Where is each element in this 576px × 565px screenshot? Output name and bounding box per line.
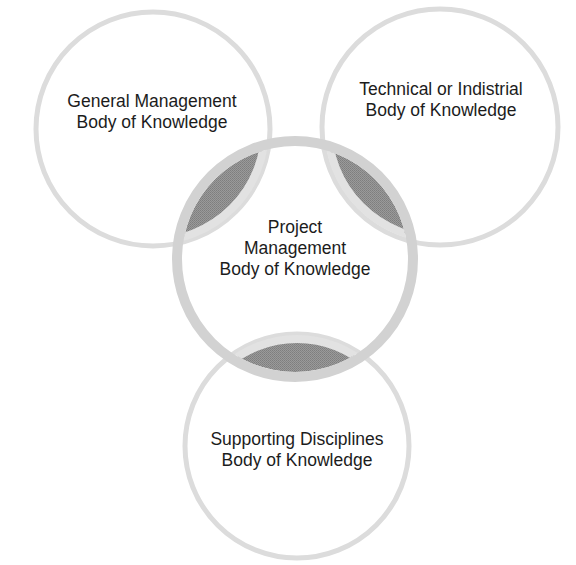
label-supporting-line2: Body of Knowledge <box>222 450 373 470</box>
label-general-line1: General Management <box>67 91 236 111</box>
label-technical-line1: Technical or Indistrial <box>359 79 522 99</box>
label-general-line2: Body of Knowledge <box>77 112 228 132</box>
label-supporting-line1: Supporting Disciplines <box>210 429 383 449</box>
label-project-line3: Body of Knowledge <box>220 259 371 279</box>
knowledge-areas-diagram: General Management Body of Knowledge Tec… <box>0 0 576 565</box>
label-project-line2: Management <box>244 238 346 258</box>
label-project-line1: Project <box>268 217 323 237</box>
circle-technical <box>322 9 558 245</box>
label-technical-line2: Body of Knowledge <box>366 100 517 120</box>
